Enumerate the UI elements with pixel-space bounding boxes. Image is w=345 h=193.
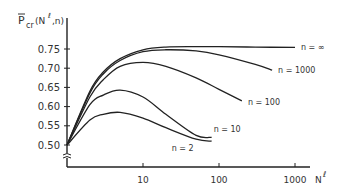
curves [67,47,295,145]
x-tick-label: 100 [210,175,227,185]
y-axis-break-icon [63,153,71,158]
y-axis-label: P cr (N ℓ ,n) [18,12,64,30]
y-tick-label: 0.60 [38,101,60,112]
svg-text:(N: (N [35,16,45,26]
series-label: n = 2 [172,144,194,153]
y-tick-label: 0.55 [38,120,60,131]
x-tick-label: 10 [137,175,149,185]
chart: 0.500.550.600.650.700.75 101001000 n = ∞… [0,0,345,193]
svg-text:,n): ,n) [52,16,64,26]
svg-text:cr: cr [26,21,34,30]
series-label: n = 10 [214,125,241,134]
series-label: n = ∞ [301,43,325,52]
x-axis-label: N ℓ [315,170,326,185]
y-ticks: 0.500.550.600.650.700.75 [38,44,70,151]
curve-series [67,112,212,145]
svg-text:N: N [315,175,322,185]
y-tick-label: 0.65 [38,82,60,93]
svg-text:ℓ: ℓ [322,170,326,179]
series-label: n = 1000 [278,66,315,75]
y-tick-label: 0.75 [38,44,60,55]
svg-text:P: P [18,14,25,27]
y-tick-label: 0.70 [38,63,60,74]
series-label: n = 100 [248,98,280,107]
y-tick-label: 0.50 [38,140,60,151]
x-tick-label: 1000 [284,175,307,185]
svg-text:ℓ: ℓ [47,12,51,20]
series-labels: n = ∞n = 1000n = 100n = 10n = 2 [172,43,325,153]
